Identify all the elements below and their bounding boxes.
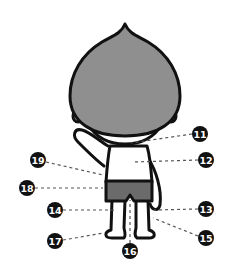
callout-11: 11	[192, 126, 208, 142]
leader-15	[153, 218, 198, 236]
callout-16: 16	[122, 243, 138, 259]
body-parts-diagram: 11 12 13 14 15 16 17 18 19	[0, 0, 234, 280]
shorts	[106, 181, 152, 201]
head	[70, 24, 180, 136]
callout-19: 19	[30, 152, 46, 168]
leader-17	[63, 233, 104, 240]
callout-13: 13	[198, 201, 214, 217]
callout-14: 14	[47, 202, 63, 218]
callout-15: 15	[198, 230, 214, 246]
badge-label: 15	[199, 233, 212, 244]
badge-label: 17	[48, 236, 61, 247]
badge-label: 12	[199, 155, 212, 166]
callout-17: 17	[47, 233, 63, 249]
left-leg	[106, 200, 125, 238]
badge-label: 14	[48, 205, 62, 216]
badge-label: 11	[193, 129, 206, 140]
badge-label: 13	[199, 204, 212, 215]
callout-12: 12	[198, 152, 214, 168]
badge-label: 16	[123, 246, 137, 257]
callout-18: 18	[19, 180, 35, 196]
badge-label: 19	[31, 155, 44, 166]
badge-label: 18	[20, 183, 34, 194]
leader-19	[46, 162, 103, 175]
cartoon-figure	[70, 24, 180, 238]
leader-13	[154, 209, 198, 210]
torso	[106, 146, 152, 182]
